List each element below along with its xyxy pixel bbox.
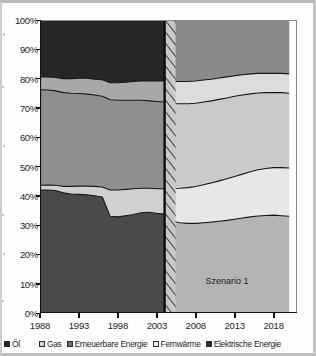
legend-label: Elektrische Energie [214,339,281,349]
x-axis-tick-mark [117,313,119,318]
x-axis-tick-mark [195,313,197,318]
chart-figure: 0%10%20%30%40%50%60%70%80%90%100%1988199… [0,0,316,356]
x-axis-tick-label: 1993 [69,320,89,331]
x-axis-tick-mark [78,313,80,318]
scenario-annotation: Szenario 1 [205,276,248,286]
x-axis-tick-label: 1988 [30,320,50,331]
legend-item[interactable]: Gas [39,339,67,349]
legend-item[interactable]: Elektrische Energie [206,339,286,349]
legend-label: Öl [12,339,20,349]
legend-item[interactable]: Fernwärme [153,339,206,349]
x-axis-tick-mark [156,313,158,318]
legend-item[interactable]: Öl [4,339,25,349]
x-axis-tick-mark [234,313,236,318]
x-axis-tick-label: 2008 [186,320,206,331]
legend-label: Gas [47,339,62,349]
x-axis-tick-label: 2018 [263,320,283,331]
x-axis-tick-label: 2013 [225,320,245,331]
legend-item[interactable]: Erneuerbare Energie [67,339,153,349]
x-axis-tick-mark [273,313,275,318]
x-axis-tick-mark [39,313,41,318]
legend-swatch-icon [67,341,73,347]
stacked-area-svg [40,20,297,313]
legend-label: Erneuerbare Energie [75,339,148,349]
x-axis-tick-label: 2003 [147,320,167,331]
legend-swatch-icon [153,341,159,347]
legend-swatch-icon [206,341,212,347]
legend-swatch-icon [39,341,45,347]
scenario-transition-hatch [165,20,176,313]
legend-swatch-icon [4,341,10,347]
plot-area [40,20,297,313]
x-axis-tick-label: 1998 [108,320,128,331]
legend-label: Fernwärme [161,339,201,349]
chart-legend: ÖlGasErneuerbare EnergieFernwärmeElektri… [4,336,312,352]
